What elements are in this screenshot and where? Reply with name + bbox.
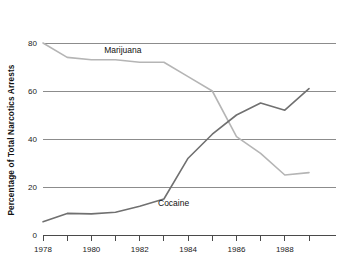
x-tick-label-1978: 1978	[34, 245, 52, 254]
chart-background	[0, 0, 344, 260]
annotation-marijuana: Marijuana	[104, 45, 142, 55]
x-tick-label-1980: 1980	[83, 245, 101, 254]
y-axis-title: Percentage of Total Narcotics Arrests	[7, 64, 16, 215]
chart-container: 1978 1980 1982 1984 1986 1988 80 60 40 2…	[0, 0, 344, 260]
x-tick-label-1988: 1988	[276, 245, 294, 254]
y-tick-label-40: 40	[28, 135, 37, 144]
x-tick-label-1982: 1982	[131, 245, 149, 254]
y-tick-label-0: 0	[33, 231, 38, 240]
narcotics-arrests-line-chart: 1978 1980 1982 1984 1986 1988 80 60 40 2…	[0, 0, 344, 260]
x-tick-label-1984: 1984	[179, 245, 197, 254]
x-tick-label-1986: 1986	[228, 245, 246, 254]
y-tick-label-60: 60	[28, 87, 37, 96]
annotation-cocaine: Cocaine	[158, 198, 189, 208]
y-tick-label-20: 20	[28, 183, 37, 192]
y-tick-label-80: 80	[28, 39, 37, 48]
